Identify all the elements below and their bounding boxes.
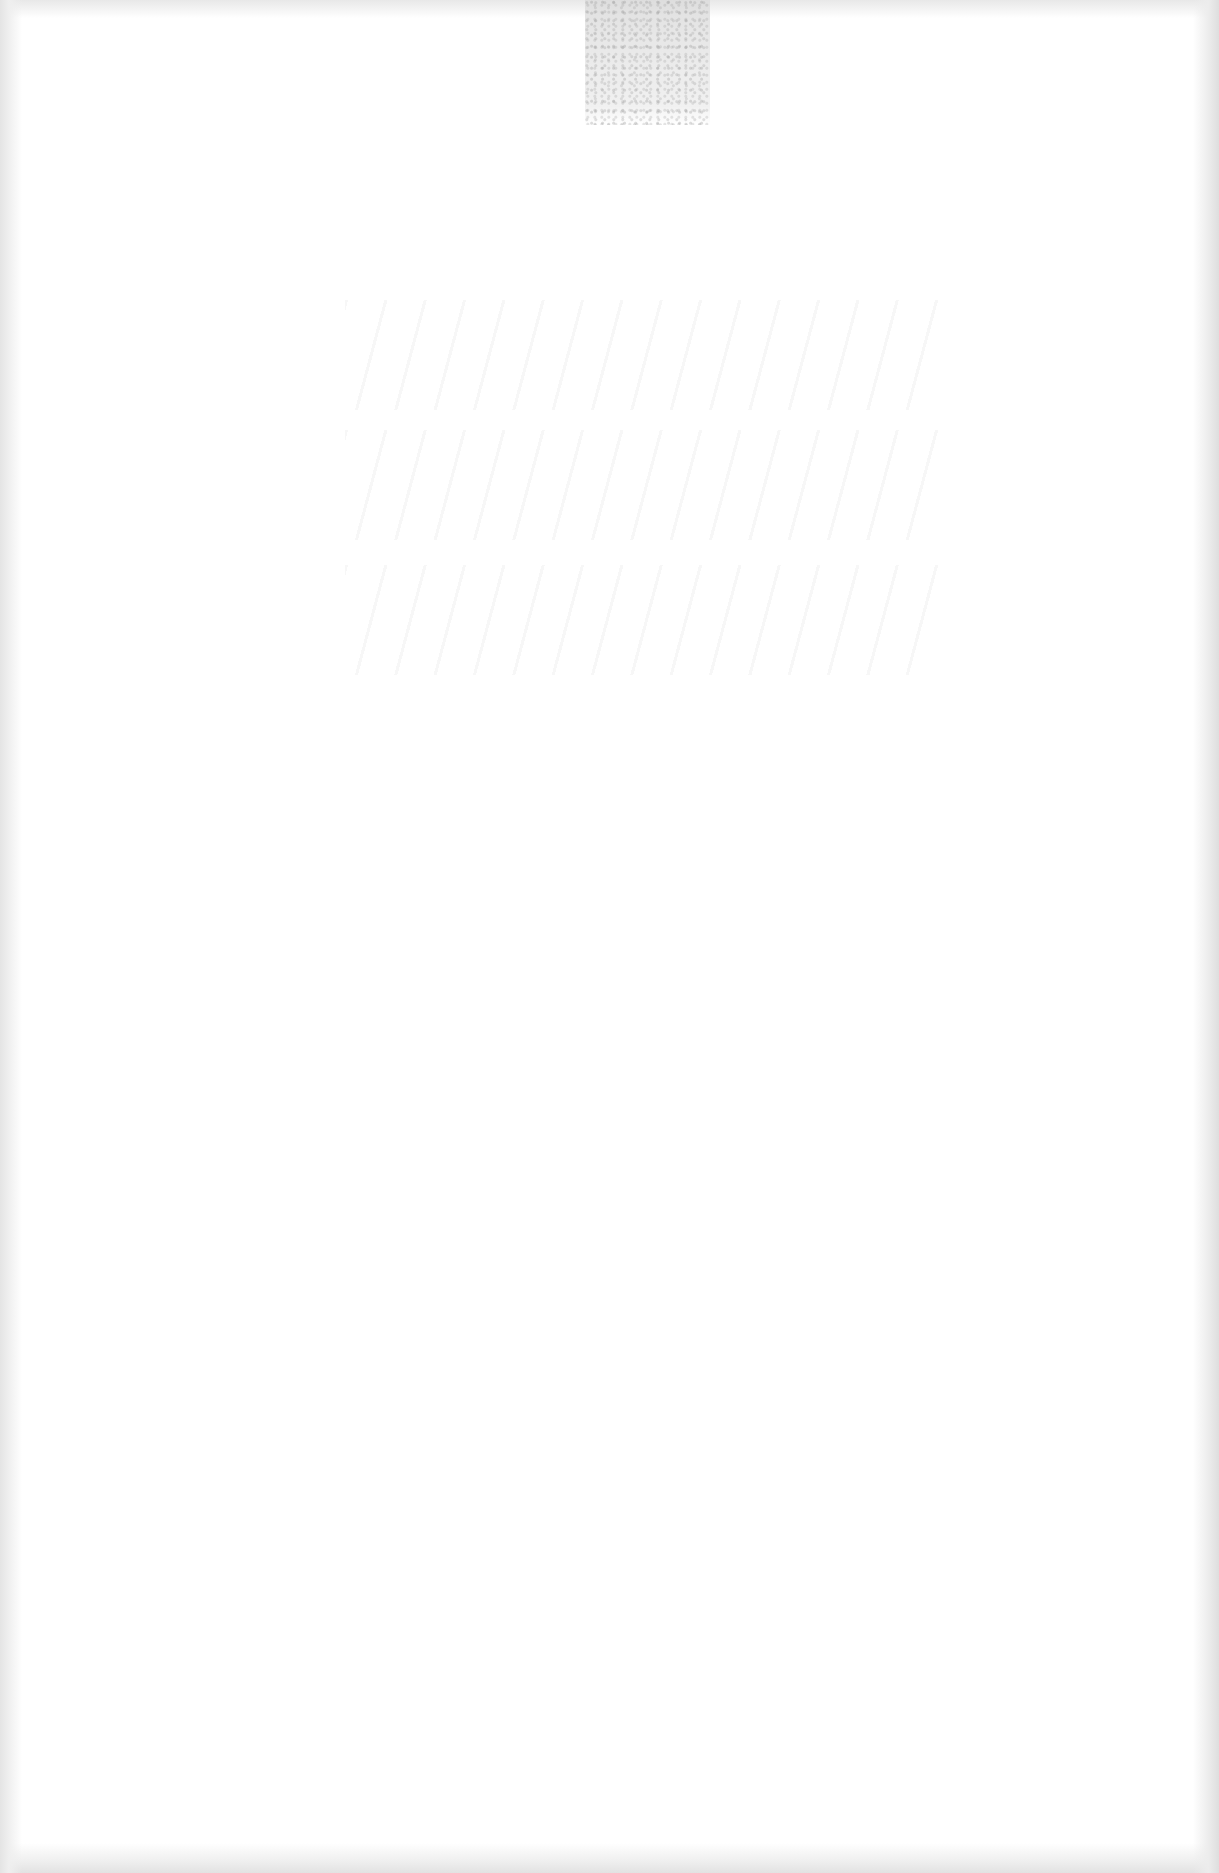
show-through-ghosting: [345, 300, 945, 680]
scanned-page: [0, 0, 1219, 1873]
right-edge-shadow: [1193, 0, 1219, 1873]
ghost-line: [345, 300, 945, 410]
ghost-line: [345, 430, 945, 540]
scan-artifact-patch: [585, 0, 710, 125]
left-edge-shadow: [0, 0, 22, 1873]
ghost-line: [345, 565, 945, 675]
bottom-edge-shadow: [0, 1843, 1219, 1873]
